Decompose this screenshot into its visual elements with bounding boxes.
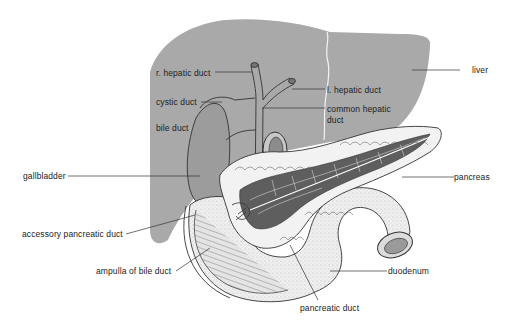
label-duodenum: duodenum — [388, 266, 429, 276]
label-l-hepatic-duct: l. hepatic duct — [327, 85, 381, 95]
label-gallbladder: gallbladder — [23, 171, 66, 181]
label-r-hepatic-duct: r. hepatic duct — [156, 68, 210, 78]
label-bile-duct: bile duct — [156, 123, 189, 133]
label-liver: liver — [472, 65, 488, 75]
label-common-hepatic-duct-line2: duct — [327, 115, 343, 125]
label-pancreas: pancreas — [454, 172, 490, 182]
anatomy-illustration — [0, 0, 508, 325]
label-accessory-pancreatic-duct: accessory pancreatic duct — [22, 229, 123, 239]
label-cystic-duct: cystic duct — [156, 97, 197, 107]
label-common-hepatic-duct: common hepatic — [327, 104, 391, 114]
label-ampulla-of-bile-duct: ampulla of bile duct — [96, 266, 171, 276]
label-pancreatic-duct: pancreatic duct — [300, 303, 359, 313]
